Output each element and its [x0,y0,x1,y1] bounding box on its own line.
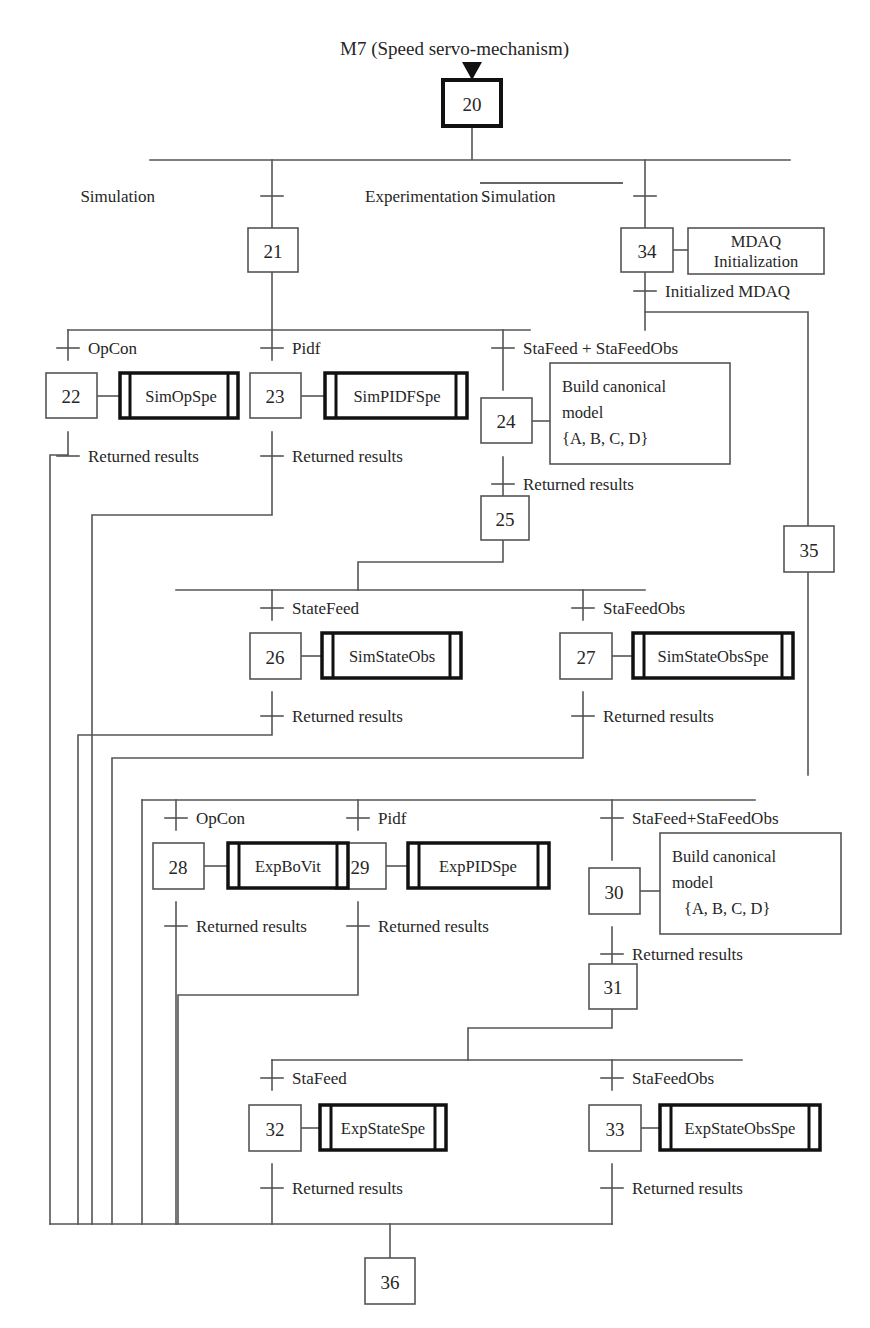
step-30-label: 30 [605,882,624,903]
action-simstateobs-label: SimStateObs [349,647,435,666]
step-22-label: 22 [62,386,81,407]
action-mdaq-initialization[interactable]: MDAQ Initialization [688,228,824,274]
transition-label-returned-33: Returned results [632,1179,743,1198]
return-23-left [92,456,272,1224]
step-24[interactable]: 24 [481,398,532,443]
step-28[interactable]: 28 [153,843,204,889]
step-34[interactable]: 34 [621,228,673,272]
transition-label-returned-23: Returned results [292,447,403,466]
return-22-left [50,455,68,1224]
transition-label-stafeed-stafeedobs-exp: StaFeed+StaFeedObs [632,809,779,828]
transition-label-returned-27: Returned results [603,707,714,726]
link-25-down [358,540,503,590]
transition-label-stafeedobs-27: StaFeedObs [603,599,685,618]
step-29-label: 29 [351,857,370,878]
transition-label-pidf-exp: Pidf [378,809,407,828]
step-33[interactable]: 33 [589,1105,641,1151]
action-build-exp-line1: Build canonical [672,847,776,866]
step-20[interactable]: 20 [443,80,501,126]
action-exppidspe[interactable]: ExpPIDSpe [408,843,549,888]
step-36-label: 36 [381,1272,400,1293]
transition-label-simulation: Simulation [80,187,155,206]
step-23-label: 23 [266,386,285,407]
step-31-label: 31 [604,977,623,998]
step-21-label: 21 [264,241,283,262]
action-expbovit-label: ExpBoVit [255,857,321,876]
action-simstateobs[interactable]: SimStateObs [322,633,461,678]
transition-label-stafeedobs-33: StaFeedObs [632,1069,714,1088]
step-21[interactable]: 21 [248,228,298,272]
step-31[interactable]: 31 [589,964,637,1009]
action-mdaq-line1: MDAQ [731,232,782,251]
step-26-label: 26 [266,647,285,668]
transition-label-opcon-exp: OpCon [196,809,246,828]
step-28-label: 28 [169,857,188,878]
step-32-label: 32 [266,1119,285,1140]
return-26-left [78,716,272,1224]
action-build-canonical-model-exp[interactable]: Build canonical model {A, B, C, D} [660,833,841,934]
grafcet-svg: 20 21 34 22 23 24 25 35 26 27 28 [0,0,870,1328]
transition-label-statefeed-26: StateFeed [292,599,360,618]
action-build-canonical-model-sim[interactable]: Build canonical model {A, B, C, D} [550,363,730,464]
action-exppidspe-label: ExpPIDSpe [439,857,517,876]
link-20-down [150,125,790,160]
transition-label-returned-32: Returned results [292,1179,403,1198]
action-expstateobsspe-label: ExpStateObsSpe [685,1119,796,1138]
transition-label-experimentation-overlined: Simulation [481,187,556,206]
action-simstateobsspe[interactable]: SimStateObsSpe [633,633,793,678]
step-33-label: 33 [606,1119,625,1140]
transition-label-returned-26: Returned results [292,707,403,726]
action-mdaq-line2: Initialization [714,252,798,271]
step-27-label: 27 [577,647,596,668]
link-31-down [468,1008,612,1060]
step-30[interactable]: 30 [589,868,640,914]
action-build-sim-line2: model [562,403,604,422]
step-32[interactable]: 32 [249,1105,301,1151]
transition-label-returned-24: Returned results [523,475,634,494]
action-expstateobsspe[interactable]: ExpStateObsSpe [660,1105,820,1150]
step-23[interactable]: 23 [250,373,301,418]
step-22[interactable]: 22 [46,373,97,418]
transition-label-stafeed-stafeedobs-sim: StaFeed + StaFeedObs [523,339,678,358]
action-build-sim-line1: Build canonical [562,377,666,396]
step-34-label: 34 [638,241,658,262]
action-expstatespe-label: ExpStateSpe [341,1119,425,1138]
transition-label-returned-29: Returned results [378,917,489,936]
diagram-title: M7 (Speed servo-mechanism) [340,38,569,60]
initial-arrow-icon [462,62,482,80]
action-build-sim-line3: {A, B, C, D} [562,429,648,448]
transition-label-returned-22: Returned results [88,447,199,466]
step-35-label: 35 [800,540,819,561]
grafcet-diagram-canvas: 20 21 34 22 23 24 25 35 26 27 28 [0,0,870,1328]
action-simpidfspe[interactable]: SimPIDFSpe [325,373,467,418]
transition-label-pidf-sim: Pidf [292,339,321,358]
step-36[interactable]: 36 [365,1258,415,1304]
transition-label-initialized-mdaq: Initialized MDAQ [665,282,790,301]
transition-label-returned-30: Returned results [632,945,743,964]
action-expstatespe[interactable]: ExpStateSpe [320,1105,446,1150]
action-simstateobsspe-label: SimStateObsSpe [658,647,769,666]
step-27[interactable]: 27 [560,633,612,679]
transition-label-returned-28: Returned results [196,917,307,936]
step-25-label: 25 [496,509,515,530]
transition-label-opcon-sim: OpCon [88,339,138,358]
transition-label-stafeed-32: StaFeed [292,1069,347,1088]
step-26[interactable]: 26 [250,633,301,679]
step-35[interactable]: 35 [784,526,834,572]
step-24-label: 24 [497,411,517,432]
action-simpidfspe-label: SimPIDFSpe [353,387,440,406]
action-expbovit[interactable]: ExpBoVit [228,843,348,888]
action-simopspe-label: SimOpSpe [145,387,217,406]
action-build-exp-line2: model [672,873,714,892]
step-20-label: 20 [463,94,482,115]
action-simopspe[interactable]: SimOpSpe [120,373,238,418]
step-25[interactable]: 25 [481,496,529,540]
transition-label-experimentation-plain: Experimentation . [365,187,487,206]
action-build-exp-line3: {A, B, C, D} [684,899,770,918]
